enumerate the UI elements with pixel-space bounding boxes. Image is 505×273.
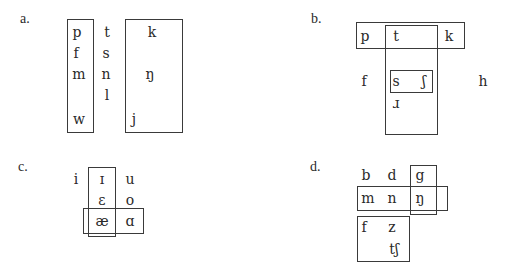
symbol-small-cap-i: ɪ [100,172,104,186]
symbol-k: k [445,29,453,43]
symbol-w: w [73,112,85,126]
panel-a-label: a. [20,12,30,26]
symbol-j: j [132,112,136,126]
symbol-p: p [361,29,370,43]
symbol-n: n [101,67,110,81]
symbol-s: s [392,74,399,88]
symbol-script-a: ɑ [126,214,135,228]
symbol-turned-r: ɹ [392,96,399,110]
symbol-p: p [73,25,82,39]
symbol-h: h [478,74,487,88]
symbol-k: k [148,25,156,39]
symbol-s: s [102,46,109,60]
panel-b-label: b. [311,12,322,26]
symbol-f: f [361,220,366,234]
panel-c-label: c. [18,160,28,174]
symbol-epsilon: ɛ [98,193,105,207]
symbol-eng: ŋ [415,191,424,205]
symbol-f: f [361,74,366,88]
symbol-u: u [125,172,134,186]
symbol-m: m [361,191,374,205]
symbol-n: n [387,191,396,205]
symbol-i: i [74,172,78,186]
symbol-d: d [388,168,397,182]
symbol-l: l [105,88,109,102]
symbol-tesh: tʃ [389,242,398,256]
panel-d-label: d. [310,160,321,174]
symbol-g: g [416,168,425,182]
symbol-eng: ŋ [145,67,154,81]
symbol-z: z [388,220,395,234]
symbol-t: t [104,25,110,39]
symbol-f: f [73,46,78,60]
box-low [83,208,144,234]
symbol-o: o [126,193,134,207]
symbol-t: t [393,29,399,43]
symbol-b: b [362,168,371,182]
symbol-ash: æ [95,214,108,228]
symbol-esh: ʃ [422,74,426,88]
symbol-m: m [72,67,85,81]
